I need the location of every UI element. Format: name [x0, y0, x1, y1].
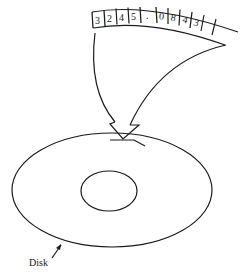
- disk-label-group: Disk: [29, 244, 61, 268]
- diagram-canvas: 3 2 4 5 . 0 8 4 3 Disk: [0, 0, 245, 280]
- write-head-mark: [110, 140, 145, 146]
- tape-bottom-edge: [93, 25, 225, 45]
- tape-cell-4: .: [146, 10, 149, 21]
- arrow-left-edge: [94, 33, 115, 122]
- tape-cell-3: 5: [131, 11, 136, 22]
- tape-cell-1: 2: [107, 13, 112, 24]
- arrow-head: [110, 122, 139, 139]
- disk-outer-edge: [12, 133, 212, 247]
- arrow-right-edge: [130, 45, 226, 125]
- tape-cell-2: 4: [119, 12, 124, 23]
- tape-cell-7: 4: [182, 13, 190, 25]
- disk-pointer-arrowhead-icon: [56, 244, 61, 250]
- disk-spindle-hole: [81, 171, 137, 211]
- tape-cell-5: 0: [158, 10, 164, 21]
- tape-cell-0: 3: [95, 15, 100, 26]
- tape-cell-8: 3: [192, 16, 200, 28]
- tape-cell-6: 8: [170, 12, 177, 24]
- tape: 3 2 4 5 . 0 8 4 3: [92, 7, 238, 45]
- disk: [12, 133, 212, 247]
- transfer-arrow: [94, 33, 226, 139]
- disk-label: Disk: [29, 257, 48, 268]
